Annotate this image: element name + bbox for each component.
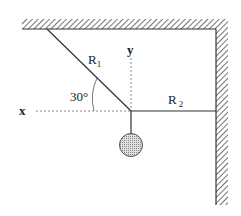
pendulum-diagram: y x R1 R2 30° [0,0,241,216]
mass-ball [120,134,143,157]
rope-r1 [47,29,131,111]
ceiling-wall [22,19,228,29]
label-r1: R1 [88,52,101,69]
label-r2: R2 [168,92,183,109]
label-angle: 30° [70,89,88,104]
right-wall [216,29,228,205]
angle-arc [92,78,97,111]
label-x-axis: x [19,103,26,118]
label-y-axis: y [127,42,134,57]
